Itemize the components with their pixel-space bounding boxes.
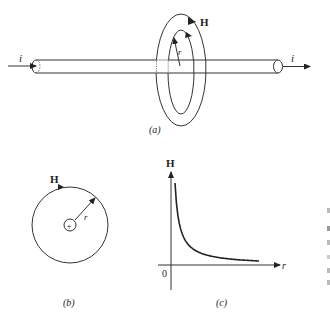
h-vs-r-curve [175, 183, 259, 261]
figure-canvas: i i H r (a) + H r (b) H r 0 (c) [0, 0, 330, 328]
wire-right-end [274, 60, 283, 73]
current-out-label: i [291, 52, 294, 64]
wire-body [36, 60, 278, 73]
current-in-label: i [19, 52, 22, 64]
figure-b: + H r (b) [32, 173, 108, 309]
radius-label-a: r [178, 47, 182, 57]
x-axis-label: r [282, 260, 286, 271]
current-direction-symbol: + [67, 221, 72, 231]
caption-a: (a) [149, 124, 161, 136]
figure-a: i i H r (a) [8, 14, 310, 136]
field-label-a: H [200, 16, 209, 28]
caption-b: (b) [63, 297, 75, 309]
figure-c: H r 0 (c) [158, 157, 286, 309]
field-label-b: H [50, 173, 59, 185]
y-axis-label: H [166, 157, 175, 169]
field-arrow-b [58, 184, 64, 190]
origin-label: 0 [162, 268, 167, 279]
caption-c: (c) [216, 297, 228, 309]
radius-label-b: r [84, 212, 88, 222]
